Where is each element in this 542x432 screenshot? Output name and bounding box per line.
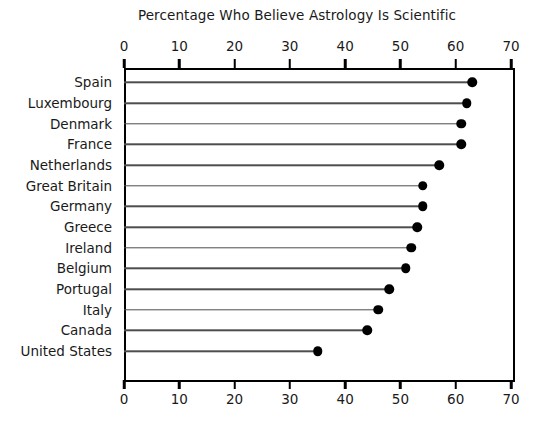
data-point-marker	[407, 243, 417, 253]
x-axis-tick-label-top: 30	[270, 38, 310, 54]
data-stem	[124, 123, 461, 124]
x-axis-tick-bottom	[399, 380, 402, 389]
y-axis-category-labels: SpainLuxembourgDenmarkFranceNetherlandsG…	[0, 68, 117, 378]
x-axis-tick-label-bottom: 30	[270, 391, 310, 407]
category-label: Luxembourg	[0, 95, 117, 111]
data-point-marker	[468, 78, 478, 88]
data-point-marker	[401, 264, 411, 274]
data-stem	[124, 185, 423, 186]
x-axis-tick-bottom	[510, 380, 513, 389]
x-axis-tick-top	[344, 59, 347, 68]
x-axis-tick-label-bottom: 70	[491, 391, 531, 407]
data-point-marker	[456, 140, 466, 150]
x-axis-tick-label-top: 60	[436, 38, 476, 54]
data-stem	[124, 350, 318, 351]
data-point-marker	[385, 284, 395, 294]
category-label: Great Britain	[0, 178, 117, 194]
category-label: United States	[0, 343, 117, 359]
x-axis-tick-bottom	[123, 380, 126, 389]
x-axis-tick-label-bottom: 20	[215, 391, 255, 407]
x-axis-tick-top	[510, 59, 513, 68]
x-axis-tick-label-bottom: 50	[380, 391, 420, 407]
data-stem	[124, 247, 411, 248]
x-axis-tick-label-top: 50	[380, 38, 420, 54]
x-axis-tick-bottom	[454, 380, 457, 389]
x-axis-tick-top	[289, 59, 292, 68]
category-label: France	[0, 136, 117, 152]
x-axis-tick-label-bottom: 40	[325, 391, 365, 407]
data-stem	[124, 288, 389, 289]
data-stem	[124, 226, 417, 227]
x-axis-tick-label-bottom: 60	[436, 391, 476, 407]
x-axis-tick-top	[233, 59, 236, 68]
data-stem	[124, 144, 461, 145]
x-axis-tick-top	[123, 59, 126, 68]
x-axis-tick-bottom	[344, 380, 347, 389]
category-label: Ireland	[0, 240, 117, 256]
x-axis-tick-top	[454, 59, 457, 68]
data-stem	[124, 82, 472, 83]
x-axis-tick-label-top: 20	[215, 38, 255, 54]
category-label: Spain	[0, 74, 117, 90]
category-label: Italy	[0, 302, 117, 318]
data-point-marker	[462, 98, 472, 108]
data-stem	[124, 102, 467, 103]
category-label: Netherlands	[0, 157, 117, 173]
data-point-marker	[434, 160, 444, 170]
category-label: Germany	[0, 198, 117, 214]
category-label: Denmark	[0, 116, 117, 132]
data-point-marker	[418, 181, 428, 191]
x-axis-tick-label-top: 10	[159, 38, 199, 54]
chart-container: Percentage Who Believe Astrology Is Scie…	[0, 0, 542, 432]
data-stem	[124, 206, 423, 207]
data-stem	[124, 309, 378, 310]
data-point-marker	[418, 202, 428, 212]
data-stem	[124, 164, 439, 165]
x-axis-tick-label-top: 40	[325, 38, 365, 54]
x-axis-tick-bottom	[178, 380, 181, 389]
category-label: Canada	[0, 322, 117, 338]
data-series-layer	[124, 68, 511, 378]
x-axis-tick-top	[178, 59, 181, 68]
x-axis-tick-bottom	[289, 380, 292, 389]
chart-title: Percentage Who Believe Astrology Is Scie…	[0, 7, 542, 23]
x-axis-tick-label-top: 0	[104, 38, 144, 54]
data-point-marker	[313, 346, 323, 356]
data-stem	[124, 330, 367, 331]
x-axis-tick-label-top: 70	[491, 38, 531, 54]
data-point-marker	[412, 222, 422, 232]
category-label: Portugal	[0, 281, 117, 297]
data-point-marker	[363, 326, 373, 336]
data-stem	[124, 268, 406, 269]
x-axis-tick-label-bottom: 0	[104, 391, 144, 407]
x-axis-tick-label-bottom: 10	[159, 391, 199, 407]
data-point-marker	[456, 119, 466, 129]
data-point-marker	[374, 305, 384, 315]
x-axis-tick-bottom	[233, 380, 236, 389]
x-axis-tick-top	[399, 59, 402, 68]
category-label: Belgium	[0, 260, 117, 276]
category-label: Greece	[0, 219, 117, 235]
